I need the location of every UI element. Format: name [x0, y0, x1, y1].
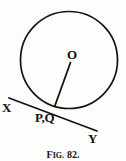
figure-strokes [9, 12, 118, 132]
caption-fig-word: FIG. [47, 149, 64, 160]
caption-figure-number: 82. [67, 149, 80, 160]
caption-fig-smallcaps: IG. [53, 151, 64, 160]
figure-caption: FIG.82. [0, 144, 126, 161]
circle-center-label: O [67, 48, 77, 61]
tangent-point-label: P,Q [35, 111, 54, 124]
geometry-figure: O X Y P,Q FIG.82. [0, 0, 126, 161]
figure-drawing-canvas [0, 0, 126, 161]
tangent-left-endpoint-label: X [2, 101, 11, 114]
radius-line [55, 63, 71, 106]
